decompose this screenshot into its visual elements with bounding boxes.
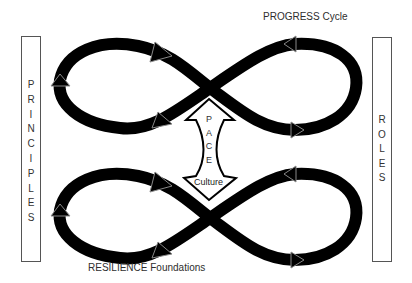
letter: E [379, 157, 386, 172]
letter: P [28, 78, 35, 93]
letter: R [378, 113, 385, 128]
roles-box: R O L E S [372, 37, 392, 262]
roles-vertical-text: R O L E S [373, 113, 391, 186]
principles-vertical-text: P R I N C I P L E S [22, 78, 40, 226]
letter: I [30, 152, 33, 167]
letter: L [379, 142, 385, 157]
pace-vertical-text: P A C E [203, 113, 215, 167]
letter: P [28, 167, 35, 182]
letter: E [206, 154, 212, 168]
letter: S [379, 171, 386, 186]
letter: N [27, 122, 34, 137]
letter: L [28, 182, 34, 197]
letter: O [378, 128, 386, 143]
letter: A [206, 127, 212, 141]
resilience-foundations-label: RESILIENCE Foundations [88, 262, 205, 273]
letter: C [27, 137, 34, 152]
principles-box: P R I N C I P L E S [21, 36, 41, 262]
letter: S [28, 211, 35, 226]
culture-label: Culture [194, 177, 223, 187]
letter: I [30, 108, 33, 123]
letter: E [28, 196, 35, 211]
progress-cycle-label: PROGRESS Cycle [263, 11, 347, 22]
letter: R [27, 93, 34, 108]
letter: P [206, 113, 212, 127]
letter: C [206, 140, 213, 154]
